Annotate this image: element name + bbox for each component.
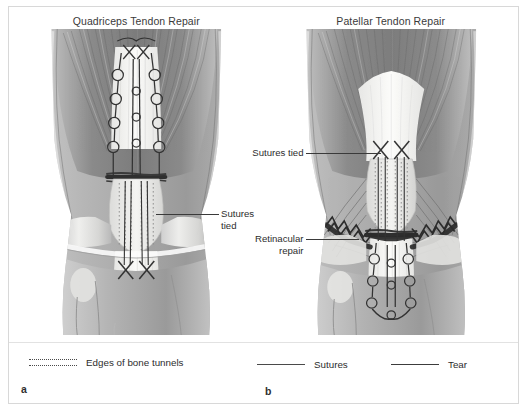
legend-label-bone-tunnels: Edges of bone tunnels [86,357,184,368]
legend-item-tear: Tear [391,359,467,370]
solid-thick-line-icon [391,364,439,365]
figure-legend: Edges of bone tunnels Sutures Tear [9,342,518,403]
leader-line-sutures-tied-a [156,214,219,215]
legend-item-sutures: Sutures [257,359,348,370]
legend-label-tear: Tear [448,359,467,370]
callout-retinacular-repair: Retinacular repair [212,233,304,257]
panel-b-title: Patellar Tendon Repair [264,15,519,27]
callout-sutures-tied-a: Sutures tied [221,208,264,232]
solid-line-icon [257,364,305,365]
legend-label-sutures: Sutures [314,359,348,370]
dotted-double-line-icon [29,357,77,368]
patellar-repair-illustration [264,29,519,335]
quadriceps-repair-illustration [9,29,264,335]
panel-a-title: Quadriceps Tendon Repair [9,15,264,27]
figure-container: Quadriceps Tendon Repair [8,6,519,404]
legend-item-bone-tunnels: Edges of bone tunnels [29,357,184,368]
leader-line-sutures-tied-b [306,153,381,154]
leader-line-retinacular-repair [306,239,359,240]
panel-letter-b: b [265,385,271,397]
panel-letter-a: a [21,383,27,395]
callout-sutures-tied-b: Sutures tied [222,147,304,159]
